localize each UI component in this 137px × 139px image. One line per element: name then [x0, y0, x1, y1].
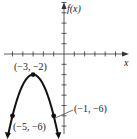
data-point — [10, 113, 15, 118]
y-axis-label: f(x) — [67, 4, 81, 14]
left-point-label: (−5, −6) — [13, 122, 46, 132]
curve-left-arrow-icon — [5, 132, 11, 139]
data-points — [10, 72, 56, 118]
right-point-label: (−1, −6) — [74, 104, 107, 114]
vertex-label: (−3, −2) — [14, 62, 47, 72]
x-axis-arrow-icon — [122, 52, 129, 57]
x-axis-label: x — [124, 58, 128, 68]
data-point — [51, 113, 56, 118]
data-point — [31, 72, 36, 77]
curve-right-arrow-icon — [55, 132, 61, 139]
y-axis-arrow-icon — [62, 2, 67, 9]
